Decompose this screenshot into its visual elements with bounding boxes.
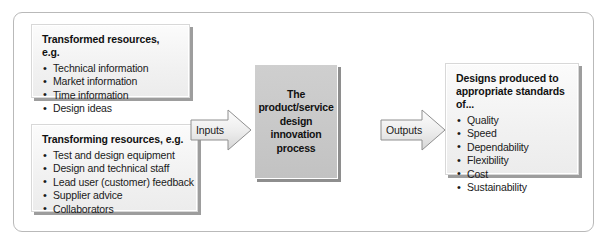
list-item: Speed [456,127,568,140]
list-item: Sustainability [456,181,568,194]
designs-produced-inner: Designs produced to appropriate standard… [446,64,578,174]
list-item: Flexibility [456,154,568,167]
inputs-arrow: Inputs [190,109,252,151]
list-item: Design ideas [42,102,179,115]
outputs-arrow-label: Outputs [380,124,422,136]
process-label: The product/service design innovation pr… [254,88,337,156]
designs-produced-list: Quality Speed Dependability Flexibility … [456,114,568,194]
list-item: Lead user (customer) feedback [42,176,187,189]
transformed-resources-title: Transformed resources, e.g. [42,33,179,59]
diagram-frame: Transformed resources, e.g. Technical in… [13,12,594,232]
list-item: Cost [456,168,568,181]
transforming-resources-box: Transforming resources, e.g. Test and de… [31,124,198,212]
outputs-arrow: Outputs [380,109,446,151]
list-item: Design and technical staff [42,162,187,175]
list-item: Market information [42,75,179,88]
design-innovation-process-box: The product/service design innovation pr… [254,64,338,179]
transformed-resources-inner: Transformed resources, e.g. Technical in… [32,25,189,97]
transforming-resources-inner: Transforming resources, e.g. Test and de… [32,125,197,211]
designs-produced-box: Designs produced to appropriate standard… [445,63,579,175]
transforming-resources-title: Transforming resources, e.g. [42,133,187,146]
transforming-resources-list: Test and design equipment Design and tec… [42,149,187,216]
list-item: Technical information [42,62,179,75]
list-item: Time information [42,89,179,102]
inputs-arrow-label: Inputs [190,124,224,136]
designs-produced-title: Designs produced to appropriate standard… [456,72,568,111]
transformed-resources-list: Technical information Market information… [42,62,179,116]
list-item: Collaborators [42,203,187,216]
list-item: Quality [456,114,568,127]
list-item: Supplier advice [42,189,187,202]
list-item: Test and design equipment [42,149,187,162]
transformed-resources-box: Transformed resources, e.g. Technical in… [31,24,190,98]
list-item: Dependability [456,141,568,154]
